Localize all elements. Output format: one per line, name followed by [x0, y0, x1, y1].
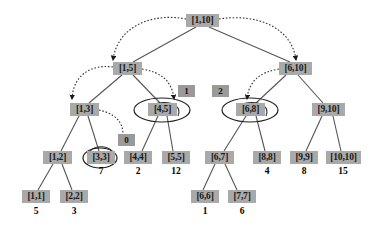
tree-edge	[62, 164, 72, 190]
tree-node-n8_8[interactable]: [8,8]	[253, 151, 281, 164]
tree-node-n1_3[interactable]: [1,3]	[70, 103, 99, 116]
tree-node-n1_1[interactable]: [1,1]	[22, 190, 50, 203]
leaf-value-v2_2: 3	[60, 206, 88, 217]
traversal-arrow	[219, 18, 296, 60]
tree-node-n4_4[interactable]: [4,4]	[124, 151, 152, 164]
tree-node-n1_2[interactable]: [1,2]	[43, 151, 72, 164]
tree-node-n5_5[interactable]: [5,5]	[162, 151, 190, 164]
tree-edge	[209, 27, 290, 62]
leaf-value-v4_4: 2	[124, 166, 152, 177]
tree-node-n2_2[interactable]: [2,2]	[60, 190, 88, 203]
leaf-value-v7_7: 6	[228, 206, 256, 217]
tree-node-n10_10[interactable]: [10,10]	[326, 151, 361, 164]
leaf-value-v9_9: 8	[290, 166, 318, 177]
tree-edge	[333, 116, 341, 151]
segment-tree-figure: [1,10][1,5][6,10][1,3][4,5][6,8][9,10][1…	[0, 0, 387, 226]
traversal-arrow	[247, 69, 279, 99]
tree-node-n6_8[interactable]: [6,8]	[236, 103, 265, 116]
step-badge-2: 2	[212, 85, 229, 97]
tree-node-n7_7[interactable]: [7,7]	[228, 190, 256, 203]
tree-node-n9_10[interactable]: [9,10]	[312, 103, 345, 116]
leaf-value-v5_5: 12	[162, 166, 190, 177]
leaf-value-v10_10: 15	[329, 166, 357, 177]
tree-edge	[38, 164, 53, 190]
step-badge-1: 1	[178, 85, 195, 97]
tree-node-n4_5[interactable]: [4,5]	[148, 103, 177, 116]
traversal-arrows	[72, 17, 296, 142]
leaf-value-v6_6: 1	[191, 206, 219, 217]
tree-edge	[88, 116, 99, 151]
tree-node-n6_6[interactable]: [6,6]	[191, 190, 219, 203]
tree-edge	[306, 116, 322, 151]
tree-edge	[89, 75, 122, 103]
tree-node-n3_3[interactable]: [3,3]	[87, 151, 115, 164]
step-badge-0: 0	[118, 134, 135, 146]
tree-edge	[61, 116, 79, 151]
traversal-arrow	[142, 69, 174, 99]
tree-edge	[225, 164, 237, 190]
tree-node-n6_7[interactable]: [6,7]	[205, 151, 234, 164]
tree-node-n1_5[interactable]: [1,5]	[113, 62, 142, 75]
leaf-value-v8_8: 4	[253, 166, 281, 177]
tree-node-n6_10[interactable]: [6,10]	[279, 62, 312, 75]
tree-edge	[133, 27, 196, 62]
tree-edge	[298, 75, 323, 103]
tree-node-n9_9[interactable]: [9,9]	[290, 151, 318, 164]
tree-edge	[203, 164, 215, 190]
leaf-value-v1_1: 5	[22, 206, 50, 217]
traversal-arrow	[72, 67, 113, 99]
tree-node-n1_10[interactable]: [1,10]	[186, 14, 219, 27]
leaf-value-v3_3: 7	[87, 166, 115, 177]
